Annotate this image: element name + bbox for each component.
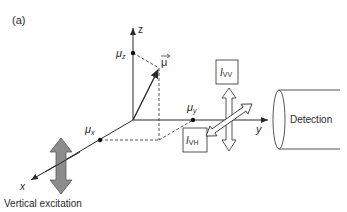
excitation-label: Vertical excitation	[4, 198, 82, 209]
detection-label: Detection	[290, 114, 332, 125]
dipole-vector-arrow	[133, 70, 158, 120]
mu-z-label: μz	[115, 47, 126, 60]
projection-lines	[100, 53, 193, 140]
mu-x-dot	[98, 138, 102, 142]
mu-y-dot	[191, 118, 195, 122]
panel-label: (a)	[12, 14, 25, 26]
y-axis-label: y	[255, 123, 263, 135]
intensity-vv-box: IVV	[216, 60, 238, 84]
z-axis: z	[133, 24, 143, 120]
detector: Detection	[273, 90, 340, 149]
polarization-diagram: (a) z y x μ μz μy μx IVV IVH	[0, 0, 347, 212]
excitation-arrow	[50, 138, 72, 194]
z-axis-label: z	[138, 24, 143, 35]
mu-x-label: μx	[84, 123, 95, 136]
svg-text:μ: μ	[161, 56, 167, 68]
x-axis-label: x	[19, 181, 26, 192]
dipole-vector-label: μ	[161, 54, 170, 68]
intensity-vh-box: IVH	[183, 128, 207, 152]
x-axis: x	[19, 120, 133, 192]
mu-y-label: μy	[186, 101, 197, 115]
mu-z-dot	[131, 51, 135, 55]
